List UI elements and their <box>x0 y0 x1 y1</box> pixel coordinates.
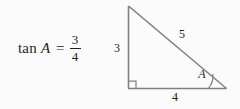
triangle-side-hypotenuse <box>129 6 227 89</box>
right-triangle-diagram: 3 4 5 A <box>0 0 240 109</box>
trigonometry-figure: tan A = 3 4 3 4 5 A <box>0 0 240 109</box>
label-hypotenuse: 5 <box>179 27 185 41</box>
right-angle-marker-icon <box>129 81 136 88</box>
label-angle-a: A <box>197 67 206 81</box>
label-adjacent-leg: 4 <box>172 90 178 104</box>
label-opposite-leg: 3 <box>114 41 120 55</box>
